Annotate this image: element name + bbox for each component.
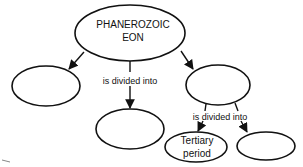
edge-right-to-bottom-right-top <box>235 103 238 111</box>
node-bottom-right-blank <box>237 132 295 160</box>
node-middle-blank <box>96 109 164 149</box>
node-root: PHANEROZOIC EON <box>75 5 185 61</box>
edge-label-root-children: is divided into <box>103 76 158 86</box>
node-tertiary: Tertiary period <box>165 132 227 162</box>
node-root-label-line1: PHANEROZOIC <box>96 19 169 30</box>
concept-map-diagram: is divided into is divided into PHANEROZ… <box>0 0 303 167</box>
stray-mark <box>2 160 10 162</box>
node-left-blank <box>12 66 80 106</box>
edge-label-right-children: is divided into <box>193 112 248 122</box>
edge-right-to-tertiary-top <box>205 104 206 111</box>
edge-root-to-left <box>69 52 84 69</box>
edge-right-to-bottom-right-bottom <box>241 121 247 132</box>
node-tertiary-label-line2: period <box>183 148 211 159</box>
node-right-blank <box>186 65 250 105</box>
edge-right-to-tertiary-bottom <box>198 121 203 131</box>
edge-root-to-right <box>181 51 193 69</box>
node-tertiary-label-line1: Tertiary <box>181 135 214 146</box>
node-root-label-line2: EON <box>122 32 144 43</box>
